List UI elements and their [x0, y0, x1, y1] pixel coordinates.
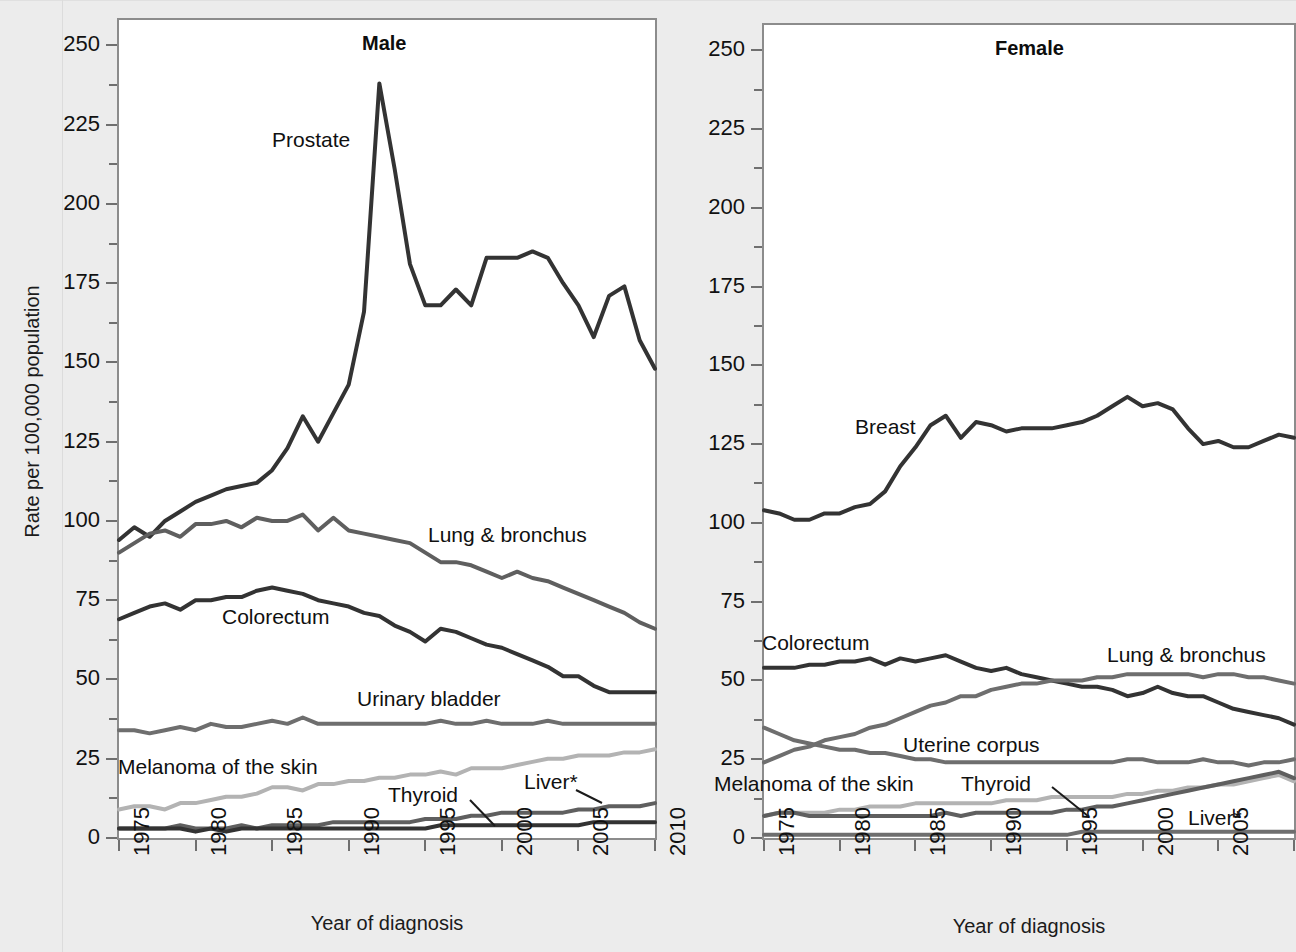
series-label-lung-male: Lung & bronchus [428, 523, 587, 547]
y-tick-major [751, 522, 762, 524]
y-tick-minor [109, 163, 117, 165]
y-tick-minor [109, 480, 117, 482]
y-tick-minor [109, 84, 117, 86]
panel-female: 0255075100125150175200225250 19751980198… [700, 0, 1296, 952]
x-tick [914, 840, 916, 851]
series-lines-female [764, 25, 1294, 838]
series-label-lung-female: Lung & bronchus [1107, 643, 1266, 667]
panel-male: Rate per 100,000 population 025507510012… [0, 0, 700, 952]
x-tick [577, 840, 579, 851]
series-lines-male [119, 20, 655, 838]
x-tick [839, 840, 841, 851]
x-tick [1142, 840, 1144, 851]
x-tick [195, 840, 197, 851]
series-label-breast: Breast [855, 415, 916, 439]
y-tick-minor [754, 798, 762, 800]
x-tick [1066, 840, 1068, 851]
y-tick-label: 75 [30, 586, 100, 612]
y-tick-minor [754, 89, 762, 91]
x-tick-label: 1985 [925, 807, 951, 856]
x-tick-label: 1990 [359, 807, 385, 856]
x-tick [118, 840, 120, 851]
y-tick-minor [109, 401, 117, 403]
series-label-uterine: Uterine corpus [903, 733, 1040, 757]
y-tick-minor [109, 243, 117, 245]
y-tick-major [106, 441, 117, 443]
y-tick-major [106, 282, 117, 284]
x-tick [271, 840, 273, 851]
y-tick-label: 200 [675, 194, 745, 220]
y-tick-major [106, 678, 117, 680]
series-label-thyroid-female: Thyroid [961, 772, 1031, 796]
series-label-melanoma-male: Melanoma of the skin [118, 755, 318, 779]
y-tick-minor [754, 640, 762, 642]
y-tick-major [106, 203, 117, 205]
x-tick-label: 2005 [588, 807, 614, 856]
y-tick-label: 100 [675, 509, 745, 535]
y-tick-label: 175 [30, 269, 100, 295]
series-label-liver-female: Liver* [1188, 806, 1242, 830]
y-tick-label: 0 [30, 824, 100, 850]
y-tick-major [751, 286, 762, 288]
x-tick-label: 1980 [850, 807, 876, 856]
y-tick-label: 150 [30, 348, 100, 374]
y-tick-label: 125 [675, 430, 745, 456]
y-tick-minor [754, 561, 762, 563]
y-tick-minor [754, 404, 762, 406]
y-tick-major [106, 361, 117, 363]
x-tick-label: 1990 [1001, 807, 1027, 856]
y-tick-label: 75 [675, 588, 745, 614]
y-tick-minor [109, 639, 117, 641]
y-tick-label: 175 [675, 273, 745, 299]
series-line-breast [764, 397, 1294, 520]
y-tick-label: 250 [675, 36, 745, 62]
x-tick [654, 840, 656, 851]
x-tick [348, 840, 350, 851]
y-tick-major [751, 443, 762, 445]
y-tick-minor [754, 719, 762, 721]
y-tick-major [751, 128, 762, 130]
plot-area-female [762, 23, 1296, 840]
y-tick-minor [754, 246, 762, 248]
y-tick-major [751, 679, 762, 681]
y-tick-label: 225 [30, 111, 100, 137]
y-tick-major [751, 837, 762, 839]
y-tick-major [106, 520, 117, 522]
series-label-bladder-male: Urinary bladder [357, 687, 501, 711]
x-tick [990, 840, 992, 851]
y-tick-minor [754, 325, 762, 327]
y-tick-label: 0 [675, 824, 745, 850]
series-label-melanoma-female: Melanoma of the skin [714, 772, 914, 796]
x-tick-label: 2000 [512, 807, 538, 856]
y-tick-minor [109, 718, 117, 720]
x-tick-label: 1975 [774, 807, 800, 856]
series-line-colorectum [119, 588, 655, 693]
y-tick-minor [109, 560, 117, 562]
y-tick-minor [754, 482, 762, 484]
series-line-prostate [119, 83, 655, 540]
x-axis-title-male: Year of diagnosis [117, 912, 657, 935]
x-tick-label: 2000 [1153, 807, 1179, 856]
y-tick-major [106, 124, 117, 126]
y-tick-major [106, 837, 117, 839]
x-tick-label: 1995 [435, 807, 461, 856]
y-tick-label: 225 [675, 115, 745, 141]
series-label-thyroid-male: Thyroid [388, 783, 458, 807]
x-tick [763, 840, 765, 851]
y-tick-label: 100 [30, 507, 100, 533]
x-tick [424, 840, 426, 851]
y-tick-major [751, 758, 762, 760]
x-tick-label: 1995 [1077, 807, 1103, 856]
y-tick-minor [109, 322, 117, 324]
series-label-liver-male: Liver* [524, 770, 578, 794]
y-tick-minor [109, 797, 117, 799]
x-tick [1217, 840, 1219, 851]
x-tick-label: 1985 [282, 807, 308, 856]
y-tick-label: 50 [675, 666, 745, 692]
y-tick-label: 50 [30, 665, 100, 691]
y-tick-label: 25 [675, 745, 745, 771]
series-line-urinary-bladder [119, 718, 655, 734]
y-tick-label: 125 [30, 428, 100, 454]
y-tick-major [751, 207, 762, 209]
series-label-colorectum-male: Colorectum [222, 605, 329, 629]
